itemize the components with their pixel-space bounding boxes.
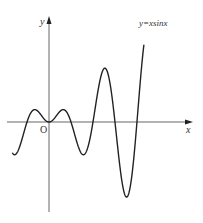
curve-xsinx [13, 45, 144, 197]
origin-label: O [40, 124, 47, 135]
y-axis-label: y [39, 16, 45, 27]
function-plot: y x O y=xsinx [0, 0, 203, 223]
function-label: y=xsinx [138, 18, 168, 28]
y-axis-arrow-icon [47, 16, 52, 24]
x-axis-label: x [185, 124, 191, 135]
